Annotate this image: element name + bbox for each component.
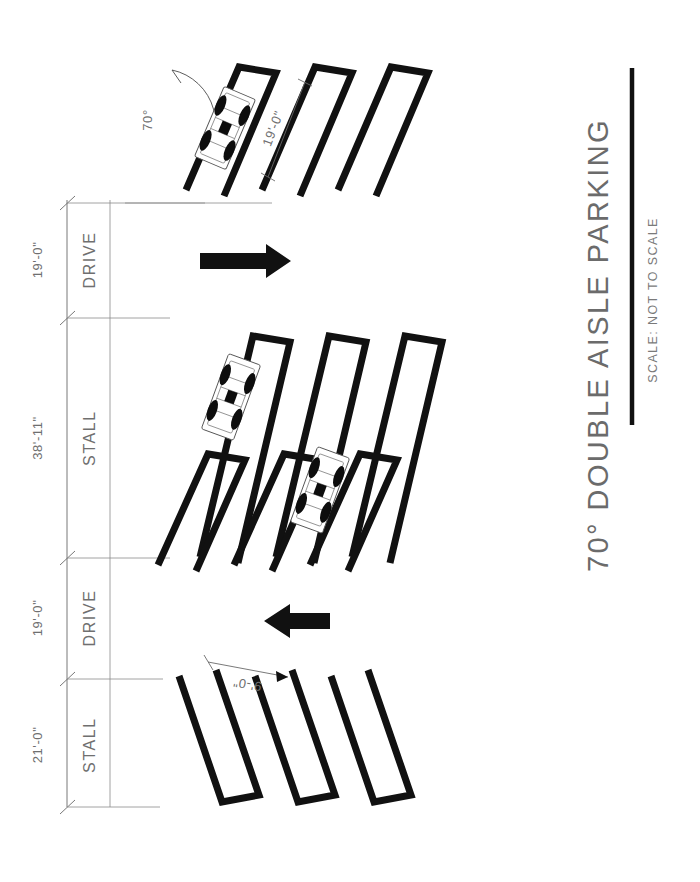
- angle-label: 70°: [140, 109, 155, 130]
- dimension-label-stall-middle: 38'-11": [30, 416, 45, 460]
- stall-outline-top-3: [338, 67, 428, 196]
- left-arrow-icon: [264, 604, 330, 638]
- arrow-upper-aisle: [200, 244, 291, 278]
- stall-row-top: 70°: [125, 67, 428, 203]
- stall-outline-mid-lower-1: [158, 454, 245, 571]
- stall-outline-bottom-2: [255, 670, 335, 802]
- right-arrow-icon: [200, 244, 291, 278]
- car-symbol-top: [194, 86, 256, 170]
- stall-width-arrowhead: [276, 671, 288, 682]
- arrow-lower-aisle: [264, 604, 330, 638]
- drawing-sheet: 19'-0" DRIVE 38'-11" STALL 19'-0" DRIVE …: [0, 0, 700, 882]
- zone-label-drive-top: DRIVE: [81, 232, 98, 289]
- zone-label-stall-bottom: STALL: [81, 717, 98, 773]
- parking-layout-drawing: 19'-0" DRIVE 38'-11" STALL 19'-0" DRIVE …: [0, 0, 700, 882]
- page-title: 70° DOUBLE AISLE PARKING: [582, 118, 614, 572]
- dimension-label-drive-top: 19'-0": [30, 242, 45, 279]
- dimension-label-drive-bottom: 19'-0": [30, 600, 45, 637]
- zone-label-drive-bottom: DRIVE: [81, 590, 98, 647]
- dimension-label-stall-bottom: 21'-0": [30, 727, 45, 764]
- scale-note: SCALE: NOT TO SCALE: [646, 217, 660, 383]
- car-symbol-mid-upper: [201, 353, 261, 440]
- stall-row-bottom: 9'-0": [179, 655, 411, 802]
- stall-outline-bottom-3: [331, 670, 411, 802]
- title-block: 70° DOUBLE AISLE PARKING SCALE: NOT TO S…: [582, 68, 660, 572]
- zone-label-stall-middle: STALL: [81, 410, 98, 466]
